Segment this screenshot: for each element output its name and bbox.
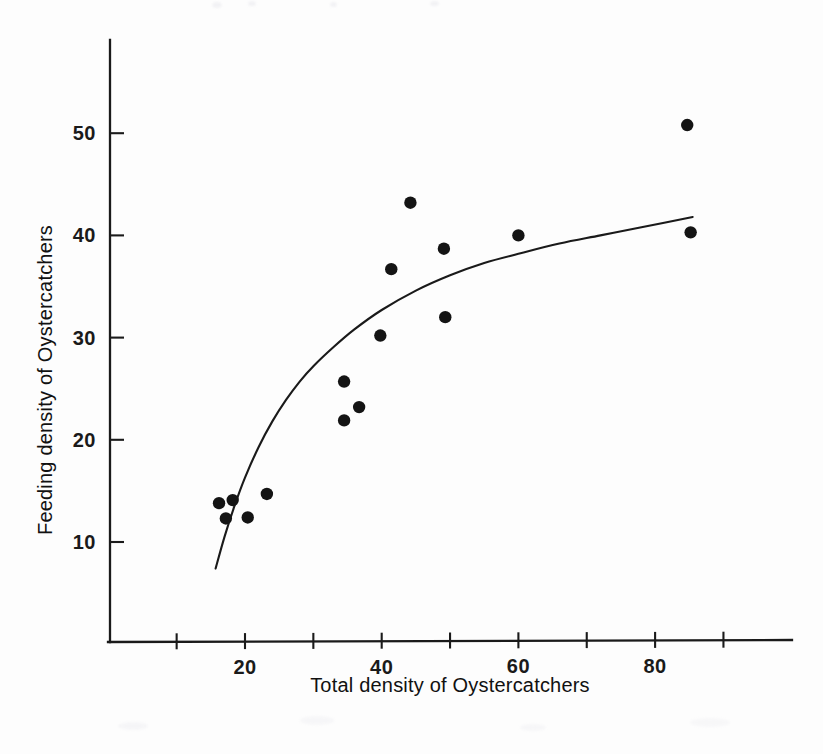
y-tick-label-20: 20: [73, 429, 96, 451]
data-point: [404, 197, 416, 209]
data-point: [338, 375, 350, 387]
data-point: [213, 497, 225, 509]
data-point: [681, 119, 693, 131]
data-point: [512, 229, 524, 241]
y-tick-label-30: 30: [73, 327, 96, 349]
data-point: [438, 242, 450, 254]
y-axis-ticks: [110, 133, 124, 542]
data-point: [242, 511, 254, 523]
y-axis-tick-labels: 1020304050: [73, 122, 96, 553]
data-point: [385, 263, 397, 275]
y-tick-label-50: 50: [73, 122, 96, 144]
data-points-layer: [213, 119, 697, 525]
data-point: [353, 401, 365, 413]
data-point: [220, 512, 232, 524]
y-axis-title: Feeding density of Oystercatchers: [34, 225, 56, 535]
data-point: [439, 311, 451, 323]
y-tick-label-10: 10: [73, 531, 96, 553]
data-point: [338, 414, 350, 426]
fitted-curve: [216, 217, 693, 569]
data-point: [374, 329, 386, 341]
data-point: [227, 494, 239, 506]
x-tick-label-80: 80: [643, 655, 666, 677]
plot-canvas: 1020304050 20406080 Total density of Oys…: [0, 0, 823, 754]
data-point: [261, 488, 273, 500]
x-tick-label-20: 20: [233, 656, 256, 678]
y-tick-label-40: 40: [73, 224, 96, 246]
x-axis-title: Total density of Oystercatchers: [310, 674, 590, 696]
scatter-plot-figure: 1020304050 20406080 Total density of Oys…: [0, 0, 823, 754]
data-point: [684, 226, 696, 238]
